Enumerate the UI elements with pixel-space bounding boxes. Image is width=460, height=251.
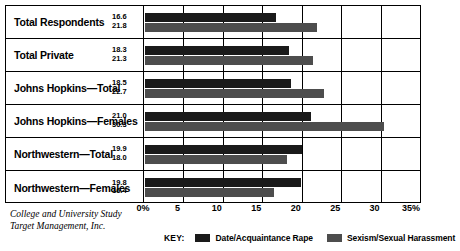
legend-swatch bbox=[195, 234, 210, 242]
bar-1 bbox=[145, 79, 291, 88]
x-axis: 0%5101520253035% bbox=[138, 203, 421, 219]
chart-row: Total Respondents16.621.8 bbox=[6, 6, 420, 39]
bar-2 bbox=[145, 56, 313, 65]
bar-2 bbox=[145, 188, 274, 197]
chart-row: Northwestern—Total19.918.0 bbox=[6, 138, 420, 171]
category-label: Total Respondents bbox=[14, 16, 104, 28]
value-label-series-2: 22.7 bbox=[112, 88, 127, 97]
bar-2 bbox=[145, 23, 317, 32]
value-labels: 21.030.3 bbox=[112, 112, 127, 129]
chart-row: Johns Hopkins—Females21.030.3 bbox=[6, 105, 420, 138]
value-label-series-2: 21.3 bbox=[112, 55, 127, 64]
legend-swatch bbox=[327, 234, 342, 242]
bar-1 bbox=[145, 112, 311, 121]
chart-legend: KEY: Date/Acquaintance RapeSexism/Sexual… bbox=[164, 231, 460, 245]
bar-2 bbox=[145, 89, 324, 98]
bar-1 bbox=[145, 46, 289, 55]
x-tick-label: 35% bbox=[402, 203, 420, 213]
legend-item: Date/Acquaintance Rape bbox=[195, 233, 312, 243]
x-tick-label: 0% bbox=[136, 203, 149, 213]
value-label-series-2: 30.3 bbox=[112, 121, 127, 130]
source-line-2: Target Management, Inc. bbox=[10, 221, 122, 233]
value-label-series-2: 16.4 bbox=[112, 188, 127, 197]
x-tick-label: 30 bbox=[370, 203, 380, 213]
chart-row: Northwestern—Females19.816.4 bbox=[6, 171, 420, 204]
x-tick-label: 25 bbox=[330, 203, 340, 213]
chart-row: Johns Hopkins—Total18.522.7 bbox=[6, 72, 420, 105]
x-tick-label: 10 bbox=[212, 203, 222, 213]
plot-frame: Total Respondents16.621.8Total Private18… bbox=[5, 5, 421, 203]
legend-item: Sexism/Sexual Harassment bbox=[327, 233, 455, 243]
bar-1 bbox=[145, 178, 301, 187]
value-label-series-2: 18.0 bbox=[112, 154, 127, 163]
bar-2 bbox=[145, 155, 287, 164]
value-labels: 18.321.3 bbox=[112, 46, 127, 63]
x-tick-label: 20 bbox=[291, 203, 301, 213]
value-labels: 16.621.8 bbox=[112, 13, 127, 30]
value-labels: 18.522.7 bbox=[112, 79, 127, 96]
category-label: Johns Hopkins—Total bbox=[14, 82, 120, 94]
legend-label: Sexism/Sexual Harassment bbox=[347, 233, 455, 243]
value-labels: 19.816.4 bbox=[112, 179, 127, 196]
x-tick-label: 15 bbox=[251, 203, 261, 213]
bar-2 bbox=[145, 122, 384, 131]
bar-1 bbox=[145, 13, 276, 22]
category-label: Northwestern—Total bbox=[14, 148, 113, 160]
value-labels: 19.918.0 bbox=[112, 145, 127, 162]
bar-1 bbox=[145, 145, 302, 154]
value-label-series-2: 21.8 bbox=[112, 22, 127, 31]
category-label: Total Private bbox=[14, 49, 74, 61]
source-line-1: College and University Study bbox=[10, 209, 122, 221]
chart-row: Total Private18.321.3 bbox=[6, 39, 420, 72]
x-tick-label: 5 bbox=[175, 203, 180, 213]
source-note: College and University Study Target Mana… bbox=[10, 209, 122, 232]
legend-label: Date/Acquaintance Rape bbox=[215, 233, 312, 243]
legend-title: KEY: bbox=[164, 233, 184, 243]
